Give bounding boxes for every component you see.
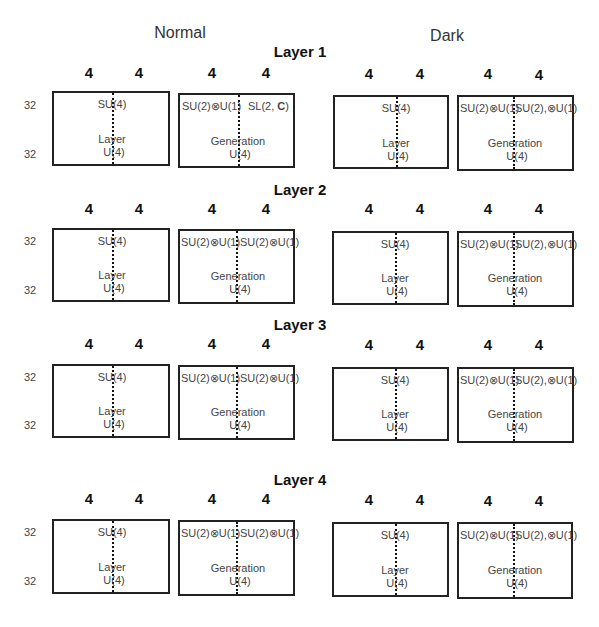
box-bottom-label: U(4)	[506, 285, 527, 298]
dark-generation-box: SU(2)⊗U(1) SU(2),⊗U(1) Generation U(4)	[457, 522, 573, 599]
box-bottom-label: U(4)	[387, 150, 408, 163]
dim-label: 4	[484, 492, 492, 509]
dim-label: 4	[484, 65, 492, 82]
dim-label: 4	[262, 490, 270, 507]
row-label-top: 32	[24, 371, 36, 383]
dim-label: 4	[535, 66, 543, 83]
box-top-left-label: SU(2)⊗U(1)	[181, 236, 240, 249]
box-bottom-label: U(4)	[229, 283, 250, 296]
row-label-top: 32	[24, 235, 36, 247]
box-name: Layer	[98, 133, 126, 146]
dim-label: 4	[416, 200, 424, 217]
dim-label: 4	[416, 65, 424, 82]
dark-layer-box: SU(4) Layer U(4)	[333, 95, 449, 169]
box-top-left-label: SU(2)⊗U(1)	[460, 238, 519, 251]
dark-generation-box: SU(2)⊗U(1) SU(2),⊗U(1) Generation U(4)	[457, 367, 574, 443]
box-bottom-label: U(4)	[506, 421, 527, 434]
dim-label: 4	[484, 200, 492, 217]
box-name: Generation	[488, 272, 542, 285]
box-bottom-label: U(4)	[386, 285, 407, 298]
normal-generation-box: SU(2)⊗U(1) SU(2)⊗U(1) Generation U(4)	[178, 520, 295, 596]
box-top-right-label: SU(2)⊗U(1)	[240, 527, 299, 540]
box-top-left-label: SU(2)⊗U(1)	[181, 372, 240, 385]
normal-layer-box: SU(4) Layer U(4)	[52, 519, 170, 594]
box-top-right-label: SU(2)⊗U(1)	[240, 372, 299, 385]
dim-label: 4	[135, 335, 143, 352]
box-top-right-label: SL(2, C)	[248, 100, 289, 112]
dim-label: 4	[484, 336, 492, 353]
normal-layer-box: SU(4) Layer U(4)	[52, 228, 170, 302]
row-label-bottom: 32	[24, 148, 36, 160]
box-top-left-label: SU(2)⊗U(1)	[460, 374, 519, 387]
box-name: Generation	[488, 137, 542, 150]
box-top-label: SU(4)	[381, 374, 410, 386]
row-label-bottom: 32	[24, 284, 36, 296]
box-bottom-label: U(4)	[103, 574, 124, 587]
box-bottom-label: U(4)	[103, 282, 124, 295]
layer-title: Layer 2	[274, 181, 327, 198]
dim-label: 4	[135, 200, 143, 217]
dim-label: 4	[208, 490, 216, 507]
normal-layer-box: SU(4) Layer U(4)	[52, 91, 170, 166]
box-top-right-label: SU(2),⊗U(1)	[515, 238, 577, 251]
dim-label: 4	[135, 64, 143, 81]
box-bottom-label: U(4)	[386, 421, 407, 434]
box-top-label: SU(4)	[98, 98, 127, 110]
dark-generation-box: SU(2)⊗U(1) SU(2),⊗U(1) Generation U(4)	[457, 231, 574, 307]
box-name: Layer	[381, 408, 409, 421]
box-name: Layer	[381, 564, 409, 577]
dim-label: 4	[85, 64, 93, 81]
column-title-normal: Normal	[154, 24, 206, 42]
box-name: Generation	[211, 562, 265, 575]
dim-label: 4	[416, 491, 424, 508]
dim-label: 4	[85, 335, 93, 352]
box-top-label: SU(4)	[98, 235, 127, 247]
dark-generation-box: SU(2)⊗U(1) SU(2),⊗U(1) Generation U(4)	[457, 95, 574, 171]
box-top-right-label: SU(2),⊗U(1)	[515, 374, 577, 387]
box-bottom-label: U(4)	[103, 146, 124, 159]
dim-label: 4	[416, 336, 424, 353]
box-top-right-label: SU(2),⊗U(1)	[515, 529, 577, 542]
dim-label: 4	[535, 200, 543, 217]
box-name: Layer	[98, 269, 126, 282]
box-top-left-label: SU(2)⊗U(1)	[181, 527, 240, 540]
box-name: Layer	[381, 272, 409, 285]
normal-layer-box: SU(4) Layer U(4)	[52, 364, 170, 438]
dim-label: 4	[262, 335, 270, 352]
dark-layer-box: SU(4) Layer U(4)	[332, 522, 449, 597]
dim-label: 4	[135, 490, 143, 507]
dim-label: 4	[365, 200, 373, 217]
dark-layer-box: SU(4) Layer U(4)	[332, 367, 449, 441]
row-label-bottom: 32	[24, 419, 36, 431]
box-name: Layer	[382, 137, 410, 150]
dim-label: 4	[365, 336, 373, 353]
dark-layer-box: SU(4) Layer U(4)	[332, 231, 449, 305]
box-name: Generation	[488, 408, 542, 421]
dim-label: 4	[365, 491, 373, 508]
box-bottom-label: U(4)	[229, 419, 250, 432]
box-name: Generation	[211, 270, 265, 283]
box-name: Generation	[488, 564, 542, 577]
box-bottom-label: U(4)	[506, 150, 527, 163]
box-bottom-label: U(4)	[229, 148, 250, 161]
column-title-dark: Dark	[430, 27, 464, 45]
box-bottom-label: U(4)	[386, 577, 407, 590]
box-top-left-label: SU(2)⊗U(1)	[182, 100, 241, 113]
normal-generation-box: SU(2)⊗U(1) SU(2)⊗U(1) Generation U(4)	[178, 365, 295, 440]
box-bottom-label: U(4)	[506, 577, 527, 590]
dim-label: 4	[85, 200, 93, 217]
box-top-label: SU(4)	[381, 238, 410, 250]
dim-label: 4	[262, 64, 270, 81]
dim-label: 4	[535, 336, 543, 353]
box-top-label: SU(4)	[381, 529, 410, 541]
box-top-label: SU(4)	[98, 371, 127, 383]
row-label-bottom: 32	[24, 575, 36, 587]
box-top-left-label: SU(2)⊗U(1)	[460, 102, 519, 115]
dim-label: 4	[208, 64, 216, 81]
box-name: Generation	[211, 135, 265, 148]
dim-label: 4	[208, 335, 216, 352]
dim-label: 4	[208, 200, 216, 217]
row-label-top: 32	[24, 99, 36, 111]
normal-generation-box: SU(2)⊗U(1) SL(2, C) Generation U(4)	[178, 93, 295, 168]
layer-title: Layer 4	[274, 471, 327, 488]
